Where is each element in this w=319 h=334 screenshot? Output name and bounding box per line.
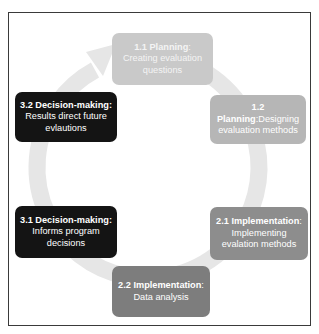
step-1-2-planning: 1.2 Planning:Designing evaluation method… (210, 95, 306, 144)
step-3-2-decision-making: 3.2 Decision-making:Results direct futur… (15, 92, 117, 142)
step-1-1-planning: 1.1 Planning: Creating evaluation questi… (112, 33, 213, 85)
step-title: 2.2 Implementation (118, 280, 201, 290)
step-text: Implementing evalation methods (222, 228, 297, 250)
step-text: Informs program decisions (32, 226, 99, 248)
step-text: Results direct future evlautions (25, 111, 107, 133)
step-title: 3.1 Decision-making: (20, 215, 112, 225)
step-2-2-implementation: 2.2 Implementation: Data analysis (112, 266, 210, 317)
step-title: 3.2 Decision-making: (20, 100, 112, 110)
step-text: Creating evaluation questions (123, 53, 202, 75)
step-2-1-implementation: 2.1 Implementation: Implementing evalati… (210, 207, 308, 260)
step-title: 2.1 Implementation (216, 216, 299, 226)
step-title: 1.1 Planning (134, 42, 188, 52)
step-3-1-decision-making: 3.1 Decision-making:Informs program deci… (15, 206, 117, 258)
step-text: Data analysis (133, 292, 188, 302)
